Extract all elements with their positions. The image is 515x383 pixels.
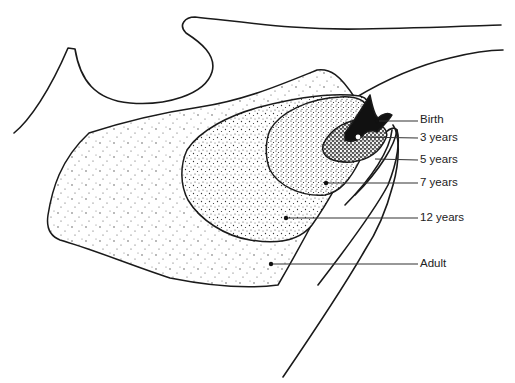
label-12-years: 12 years xyxy=(420,212,464,224)
label-7-years: 7 years xyxy=(420,177,458,189)
lower-upper-outline xyxy=(355,50,503,98)
label-5-years: 5 years xyxy=(420,154,458,166)
label-adult: Adult xyxy=(420,258,446,270)
growth-diagram xyxy=(0,0,515,383)
label-birth: Birth xyxy=(420,114,444,126)
label-3-years: 3 years xyxy=(420,132,458,144)
